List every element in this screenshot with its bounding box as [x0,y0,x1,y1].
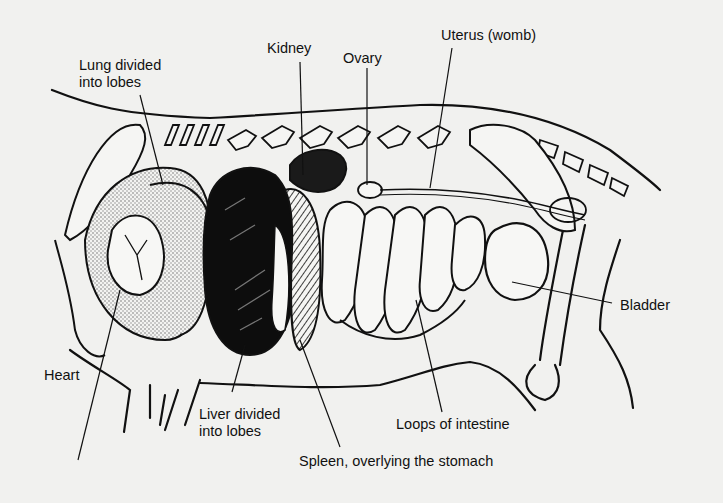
label-uterus: Uterus (womb) [441,27,536,44]
rabbit-anatomy-diagram: Lung divided into lobes Kidney Ovary Ute… [0,0,723,503]
label-spleen: Spleen, overlying the stomach [299,453,493,470]
label-liver-line2: into lobes [199,423,280,440]
label-lung-line2: into lobes [79,74,161,91]
label-bladder: Bladder [620,297,670,314]
label-intestine: Loops of intestine [396,416,510,433]
label-liver: Liver divided into lobes [199,406,280,440]
label-ovary: Ovary [343,50,382,67]
label-kidney: Kidney [267,40,311,57]
label-lung-line1: Lung divided [79,57,161,74]
label-heart: Heart [44,367,79,384]
label-lung: Lung divided into lobes [79,57,161,91]
label-liver-line1: Liver divided [199,406,280,423]
